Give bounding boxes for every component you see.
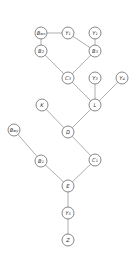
node-Z: Z xyxy=(62,234,74,246)
graph-diagram: BwoY1Y1B2B3C3Y3Y4KLDBwyB1C1EY5Z xyxy=(0,0,137,274)
node-K: K xyxy=(36,99,48,111)
node-Y5: Y5 xyxy=(62,207,74,219)
node-Bwo: Bwo xyxy=(35,27,47,39)
node-Bwy: Bwy xyxy=(8,124,20,136)
node-label: D xyxy=(66,129,70,135)
node-Y3: Y3 xyxy=(89,72,101,84)
node-E: E xyxy=(62,180,74,192)
node-Y2: Y1 xyxy=(89,27,101,39)
node-label: Z xyxy=(65,237,70,243)
node-Y4: Y4 xyxy=(116,72,128,84)
node-B3: B3 xyxy=(89,45,101,57)
node-Y1: Y1 xyxy=(62,27,74,39)
node-layer: BwoY1Y1B2B3C3Y3Y4KLDBwyB1C1EY5Z xyxy=(8,27,128,246)
node-B1: B1 xyxy=(35,155,47,167)
node-L: L xyxy=(89,99,101,111)
node-label: L xyxy=(94,102,97,108)
node-D: D xyxy=(62,126,74,138)
node-C3: C3 xyxy=(62,72,74,84)
node-C1: C1 xyxy=(89,154,101,166)
node-label: K xyxy=(40,102,44,108)
node-B2: B2 xyxy=(35,45,47,57)
